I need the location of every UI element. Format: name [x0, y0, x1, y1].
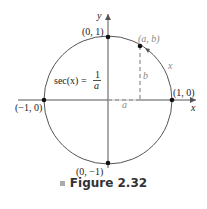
- formula-numerator: 1: [95, 69, 100, 80]
- label-arc-x: x: [167, 60, 173, 71]
- formula-denominator: a: [94, 80, 99, 91]
- x-axis-label: x: [190, 102, 196, 113]
- label-b: b: [143, 70, 148, 81]
- formula-lhs: sec(x) =: [54, 75, 87, 87]
- figure-caption: Figure 2.32: [0, 176, 207, 190]
- point-left: [42, 98, 47, 103]
- label-right: (1, 0): [173, 87, 195, 99]
- label-left: (−1, 0): [15, 102, 42, 114]
- caption-text: Figure 2.32: [70, 176, 147, 190]
- point-top: [106, 35, 111, 40]
- caption-bullet-icon: [60, 181, 65, 186]
- label-top: (0, 1): [82, 26, 104, 38]
- point-ab: [138, 44, 143, 49]
- y-axis-arrow-icon: [105, 14, 111, 20]
- point-right: [170, 98, 175, 103]
- label-ab: (a, b): [138, 33, 160, 45]
- point-bottom: [106, 161, 111, 166]
- label-a: a: [122, 99, 127, 110]
- arc-arrow-icon: [145, 48, 150, 53]
- y-axis-label: y: [96, 10, 102, 21]
